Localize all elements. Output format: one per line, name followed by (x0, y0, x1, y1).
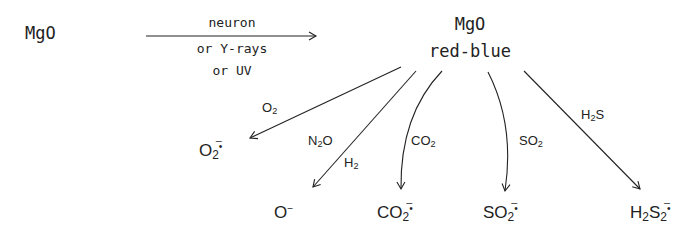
center-species: MgO (455, 16, 486, 33)
reagent-n2o: N2O (308, 134, 333, 147)
h2s-branch-arrow (524, 71, 640, 189)
n2o-h2-branch-arrow (313, 71, 416, 187)
product-h2s2-radical: H2S2̅• (630, 204, 670, 221)
co2-branch-arrow (401, 71, 442, 189)
center-species-color: red-blue (429, 43, 511, 60)
reagent-h2: H2 (344, 156, 358, 169)
product-o-minus: O− (274, 204, 293, 221)
so2-branch-arrow (488, 72, 508, 191)
condition-gamma: or Y-rays (197, 42, 267, 55)
reagent-so2: SO2 (519, 134, 543, 147)
reaction-diagram: MgO neuron or Y-rays or UV MgO red-blue … (0, 0, 697, 239)
product-so2-radical: SO2̅• (483, 204, 518, 221)
reagent-co2: CO2 (411, 134, 436, 147)
condition-neutron: neuron (209, 16, 256, 29)
condition-uv: or UV (212, 64, 251, 77)
start-species: MgO (25, 25, 56, 42)
reagent-o2: O2 (262, 101, 277, 114)
product-superoxide: O2̅• (199, 142, 222, 159)
reagent-h2s: H2S (581, 108, 604, 121)
product-co2-radical: CO2̅• (377, 204, 413, 221)
